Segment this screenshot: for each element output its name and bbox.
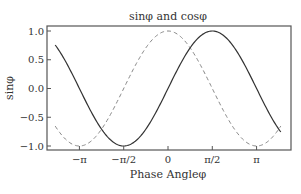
y-tick-label: 1.0: [28, 26, 44, 37]
plot-frame: [47, 26, 291, 150]
x-axis-label: Phase Angleφ: [130, 168, 207, 181]
y-axis: 1.00.50.0−0.5−1.0: [20, 26, 51, 152]
chart-title: sinφ and cosφ: [129, 10, 207, 23]
plot-area: [47, 26, 291, 150]
sin-series-line: [55, 31, 281, 146]
y-tick-label: 0.5: [28, 54, 44, 65]
x-tick-label: π/2: [204, 154, 220, 165]
x-axis: −π−π/20π/2π: [72, 146, 260, 165]
y-axis-label: sinφ: [3, 76, 16, 100]
x-tick-label: π: [253, 154, 260, 165]
x-tick-label: −π: [72, 154, 87, 165]
x-tick-label: −π/2: [111, 154, 136, 165]
y-tick-label: 0.0: [28, 83, 44, 94]
x-tick-label: 0: [165, 154, 171, 165]
chart: sinφ and cosφ 1.00.50.0−0.5−1.0 −π−π/20π…: [0, 0, 301, 194]
y-tick-label: −0.5: [20, 112, 44, 123]
y-tick-label: −1.0: [20, 141, 44, 152]
